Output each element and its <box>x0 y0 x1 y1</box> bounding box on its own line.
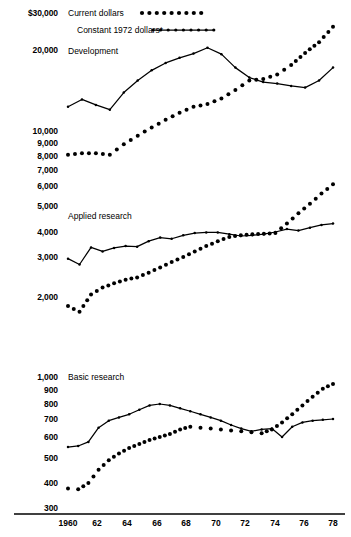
data-point <box>271 427 274 430</box>
data-point <box>108 419 111 422</box>
data-point <box>159 236 162 239</box>
legend-dot <box>151 28 154 31</box>
data-point <box>204 244 208 248</box>
data-point <box>217 231 220 234</box>
data-point <box>124 278 128 282</box>
series-basic-research-constant-1972-dollars- <box>67 403 335 449</box>
legend-dot <box>212 28 215 31</box>
data-point <box>326 384 330 388</box>
data-point <box>326 30 330 34</box>
data-point <box>158 265 162 269</box>
data-point <box>152 268 156 272</box>
data-point <box>101 286 105 290</box>
data-point <box>318 79 321 82</box>
data-point <box>192 105 196 109</box>
data-point <box>129 277 133 281</box>
data-point <box>285 416 289 420</box>
data-point <box>118 416 121 419</box>
data-point <box>219 97 223 101</box>
data-point <box>234 66 237 69</box>
data-point <box>97 468 101 472</box>
data-point <box>85 298 89 302</box>
data-point <box>90 246 93 249</box>
data-point <box>67 446 70 449</box>
data-point <box>136 79 139 82</box>
data-point <box>289 63 293 67</box>
data-point <box>158 403 161 406</box>
data-point <box>304 86 307 89</box>
data-point <box>185 108 189 112</box>
data-point <box>233 88 237 92</box>
data-point <box>109 108 112 111</box>
data-point <box>212 99 216 103</box>
data-point <box>240 427 243 430</box>
data-point <box>122 142 126 146</box>
data-point <box>331 382 335 386</box>
data-point <box>153 436 157 440</box>
data-point <box>280 420 284 424</box>
data-point <box>276 82 279 85</box>
data-point <box>321 387 325 391</box>
series-development-current-dollars <box>66 25 335 157</box>
data-point <box>303 51 307 55</box>
data-point <box>302 207 306 211</box>
series-basic-research-current-dollars <box>66 382 335 491</box>
data-point <box>181 255 185 259</box>
data-point <box>306 399 310 403</box>
legend-dot <box>184 11 188 15</box>
data-point <box>112 281 116 285</box>
data-point <box>164 263 168 267</box>
data-point <box>219 427 223 431</box>
data-point <box>138 409 141 412</box>
data-point <box>260 428 263 431</box>
data-point <box>188 425 192 429</box>
data-point <box>311 395 315 399</box>
data-point <box>169 404 172 407</box>
data-point <box>316 391 320 395</box>
data-point <box>106 283 110 287</box>
data-point <box>183 426 187 430</box>
data-point <box>115 147 119 151</box>
data-point <box>301 421 304 424</box>
data-point <box>164 62 167 65</box>
data-point <box>319 192 323 196</box>
data-point <box>295 408 299 412</box>
data-point <box>147 240 150 243</box>
data-point <box>158 435 162 439</box>
legend-dot <box>167 28 170 31</box>
data-point <box>141 273 145 277</box>
data-point <box>220 53 223 56</box>
data-point <box>209 416 212 419</box>
legend-dot <box>140 11 144 15</box>
data-point <box>72 307 76 311</box>
data-point <box>101 250 104 253</box>
data-point <box>80 151 84 155</box>
series-applied-research-current-dollars <box>66 182 335 313</box>
data-point <box>250 430 253 433</box>
data-point <box>112 455 116 459</box>
data-point <box>260 431 264 435</box>
legend-dot <box>192 11 196 15</box>
data-point <box>66 304 70 308</box>
data-point <box>262 81 265 84</box>
plot-canvas <box>0 0 351 537</box>
data-point <box>164 118 168 122</box>
data-point <box>143 130 147 134</box>
data-point <box>117 451 121 455</box>
legend-dot <box>147 11 151 15</box>
data-point <box>107 458 111 462</box>
data-point <box>332 66 335 69</box>
data-point <box>320 224 323 227</box>
data-point <box>108 153 112 157</box>
data-point <box>275 424 279 428</box>
data-point <box>239 429 243 433</box>
data-point <box>227 235 231 239</box>
data-point <box>122 449 126 453</box>
series-layer <box>66 25 335 492</box>
data-point <box>97 426 100 429</box>
data-point <box>101 152 105 156</box>
data-point <box>78 310 82 314</box>
data-point <box>78 263 81 266</box>
data-point <box>94 151 98 155</box>
data-point <box>127 446 131 450</box>
